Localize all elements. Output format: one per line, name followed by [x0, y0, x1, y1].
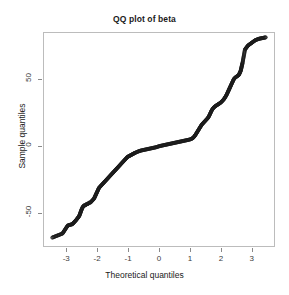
- x-tick-mark: [190, 248, 191, 252]
- x-tick-mark: [221, 248, 222, 252]
- x-tick-label: -3: [56, 254, 76, 263]
- qq-plot-figure: QQ plot of beta -3-2-10123 -50050 Theore…: [0, 0, 289, 295]
- y-axis-label: Sample quantiles: [17, 66, 27, 206]
- x-tick-label: 0: [149, 254, 169, 263]
- y-tick-mark: [38, 213, 42, 214]
- x-tick-mark: [97, 248, 98, 252]
- plot-area-border: [43, 32, 275, 247]
- chart-title: QQ plot of beta: [0, 14, 289, 24]
- y-tick-mark: [38, 79, 42, 80]
- y-tick-mark: [38, 146, 42, 147]
- x-tick-label: 1: [180, 254, 200, 263]
- x-tick-label: -1: [118, 254, 138, 263]
- x-tick-label: 2: [211, 254, 231, 263]
- x-tick-mark: [66, 248, 67, 252]
- x-tick-mark: [252, 248, 253, 252]
- x-tick-mark: [159, 248, 160, 252]
- x-tick-label: -2: [87, 254, 107, 263]
- x-axis-label: Theoretical quantiles: [0, 270, 289, 280]
- x-tick-label: 3: [242, 254, 262, 263]
- x-tick-mark: [128, 248, 129, 252]
